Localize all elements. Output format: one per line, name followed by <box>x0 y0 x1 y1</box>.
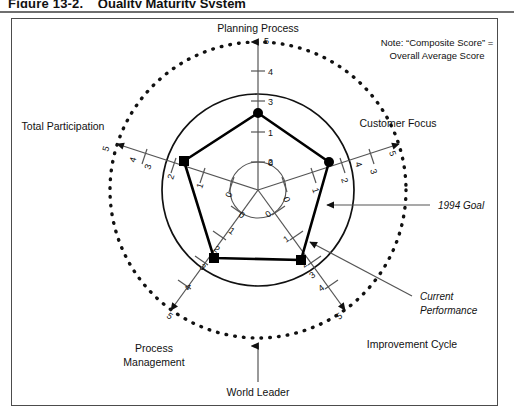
axis-title-customer-focus: Customer Focus <box>359 117 436 129</box>
tick-improvement-3: 3 <box>307 270 317 281</box>
axis-title-process-management-line1: Process <box>135 342 173 354</box>
tick-planning-1: 1 <box>268 128 273 138</box>
tick-improvement-1: 1 <box>281 234 291 245</box>
tick-customer-2: 2 <box>339 177 350 185</box>
radar-chart: 0 1 2 3 4 5 0 1 2 3 4 5 0 1 2 3 4 5 <box>0 0 514 420</box>
tick-participation-3: 3 <box>142 163 153 171</box>
axis-title-process-management-line2: Management <box>123 356 184 368</box>
current-performance-callout-leader <box>310 242 412 296</box>
tick-planning-5: 5 <box>264 36 269 46</box>
data-point-process <box>209 253 219 263</box>
axis-title-improvement-cycle: Improvement Cycle <box>367 338 458 350</box>
data-point-improvement <box>296 255 306 265</box>
tick-participation-2: 2 <box>165 173 176 181</box>
current-performance-callout-line2: Performance <box>420 305 478 316</box>
axis-title-total-participation: Total Participation <box>22 120 105 132</box>
tick-customer-4: 4 <box>353 161 364 169</box>
goal-callout-label: 1994 Goal <box>438 200 485 211</box>
tick-planning-3: 3 <box>268 97 273 107</box>
current-performance-callout-line1: Current <box>420 291 455 302</box>
tick-planning-2: 2 <box>268 157 273 167</box>
tick-customer-0: 0 <box>281 196 292 204</box>
tick-customer-5: 5 <box>387 150 398 158</box>
world-leader-callout-label: World Leader <box>227 386 290 398</box>
composite-score-note-line1: Note: “Composite Score” = <box>381 37 494 48</box>
tick-process-1: 1 <box>227 226 237 237</box>
data-point-customer <box>324 157 334 167</box>
axis-customer-focus: 0 1 2 3 4 5 <box>258 144 399 203</box>
data-point-planning <box>253 108 263 118</box>
tick-participation-4: 4 <box>127 156 138 164</box>
tick-customer-3: 3 <box>368 168 379 176</box>
current-performance-polygon <box>184 113 329 260</box>
data-point-participation <box>179 156 189 166</box>
tick-participation-5: 5 <box>100 145 111 153</box>
composite-score-note-line2: Overall Average Score <box>390 50 485 61</box>
tick-improvement-4: 4 <box>316 283 326 294</box>
axis-title-planning-process: Planning Process <box>217 22 299 34</box>
axis-total-participation: 0 1 2 3 4 5 <box>100 144 258 199</box>
tick-process-5: 5 <box>165 311 175 322</box>
tick-planning-4: 4 <box>268 67 273 77</box>
